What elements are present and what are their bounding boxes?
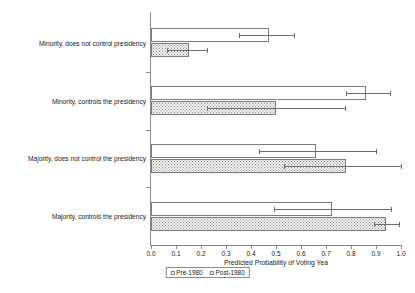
x-axis-title: Predicted Probability of Voting Yea bbox=[151, 259, 401, 266]
legend: Pre-1980 Post-1980 bbox=[165, 267, 249, 278]
x-axis-tick bbox=[376, 245, 377, 249]
error-bar-cap bbox=[259, 149, 260, 154]
x-axis-tick-label: 0.6 bbox=[296, 250, 305, 257]
category-label: Minority, does not control presidency bbox=[39, 39, 146, 46]
error-bar-line bbox=[274, 209, 392, 210]
bar-post-1980 bbox=[151, 217, 386, 231]
error-bar-line bbox=[207, 108, 345, 109]
error-bar-cap bbox=[239, 33, 240, 38]
x-axis-tick bbox=[226, 245, 227, 249]
error-bar-cap bbox=[167, 48, 168, 53]
error-bar-cap bbox=[390, 91, 391, 96]
x-axis-tick-label: 0.1 bbox=[171, 250, 180, 257]
error-bar-line bbox=[167, 50, 207, 51]
error-bar-line bbox=[346, 93, 390, 94]
legend-label-post-1980: Post-1980 bbox=[216, 269, 245, 276]
x-axis-tick bbox=[276, 245, 277, 249]
x-axis-tick-label: 0.7 bbox=[321, 250, 330, 257]
x-axis-tick-label: 0.3 bbox=[221, 250, 230, 257]
x-axis-tick-label: 0.0 bbox=[146, 250, 155, 257]
error-bar-cap bbox=[401, 164, 402, 169]
error-bar-cap bbox=[274, 207, 275, 212]
x-axis-tick-label: 0.2 bbox=[196, 250, 205, 257]
x-axis-tick bbox=[201, 245, 202, 249]
category-label: Majority, does not control the presidenc… bbox=[28, 155, 146, 162]
x-axis-tick bbox=[401, 245, 402, 249]
x-axis-tick bbox=[251, 245, 252, 249]
x-axis-tick-label: 0.9 bbox=[371, 250, 380, 257]
bar-chart: 0.00.10.20.30.40.50.60.70.80.91.0 Minori… bbox=[0, 0, 415, 293]
error-bar-cap bbox=[207, 106, 208, 111]
category-label: Minority, controls the presidency bbox=[52, 97, 146, 104]
x-axis-tick-label: 1.0 bbox=[396, 250, 405, 257]
legend-swatch-pre-1980-icon bbox=[170, 271, 174, 275]
x-axis-tick bbox=[176, 245, 177, 249]
legend-item-post-1980: Post-1980 bbox=[210, 269, 245, 276]
error-bar-cap bbox=[207, 48, 208, 53]
error-bar-cap bbox=[346, 91, 347, 96]
error-bar-cap bbox=[376, 149, 377, 154]
error-bar-line bbox=[259, 151, 377, 152]
error-bar-line bbox=[239, 35, 294, 36]
x-axis-tick-label: 0.5 bbox=[271, 250, 280, 257]
category-label: Majority, controls the presidency bbox=[52, 213, 146, 220]
x-axis-tick bbox=[151, 245, 152, 249]
error-bar-line bbox=[374, 224, 399, 225]
legend-label-pre-1980: Pre-1980 bbox=[176, 269, 202, 276]
x-axis-tick bbox=[351, 245, 352, 249]
plot-area bbox=[151, 14, 401, 245]
error-bar-cap bbox=[284, 164, 285, 169]
x-axis-tick-label: 0.8 bbox=[346, 250, 355, 257]
legend-item-pre-1980: Pre-1980 bbox=[170, 269, 202, 276]
error-bar-cap bbox=[391, 207, 392, 212]
x-axis-tick bbox=[301, 245, 302, 249]
bar-pre-1980 bbox=[151, 86, 366, 100]
error-bar-line bbox=[284, 166, 402, 167]
error-bar-cap bbox=[399, 222, 400, 227]
legend-swatch-post-1980-icon bbox=[210, 271, 214, 275]
error-bar-cap bbox=[374, 222, 375, 227]
x-axis-tick bbox=[326, 245, 327, 249]
error-bar-cap bbox=[294, 33, 295, 38]
x-axis-tick-label: 0.4 bbox=[246, 250, 255, 257]
error-bar-cap bbox=[345, 106, 346, 111]
